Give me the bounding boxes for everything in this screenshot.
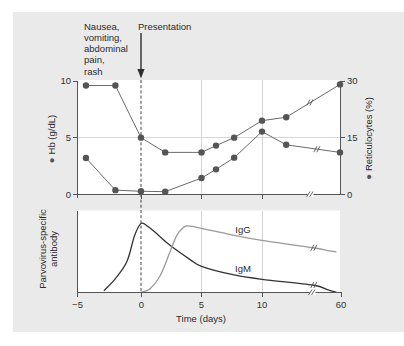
igg-curve-label: IgG xyxy=(235,224,250,235)
lower-x-axis-break-icon xyxy=(309,289,316,295)
upper-x-axis-break-icon xyxy=(307,191,314,197)
x-tick-label-5: 5 xyxy=(199,299,204,310)
x-tick-label-minus-5: −5 xyxy=(72,299,83,310)
reticulocytes-data-point xyxy=(213,166,219,172)
hb-data-point xyxy=(112,82,118,88)
reticulocytes-data-point xyxy=(283,142,289,148)
reticulocytes-data-point xyxy=(83,155,89,161)
reticulocytes-legend-marker-icon: ● xyxy=(363,174,374,180)
antibody-axis-label-line-1: Parvovirus-specific xyxy=(37,209,48,289)
hb-legend-marker-icon: ● xyxy=(46,157,57,163)
symptom-line: rash xyxy=(84,66,102,77)
reticulocytes-data-point xyxy=(198,175,204,181)
reticulocytes-data-point xyxy=(231,154,237,160)
left-tick-label-5: 5 xyxy=(66,132,71,143)
reticulocytes-data-point xyxy=(138,188,144,194)
left-tick-label-0: 0 xyxy=(66,189,71,200)
right-tick-label-0: 0 xyxy=(347,189,352,200)
x-tick-label-60: 60 xyxy=(336,299,347,310)
right-tick-label-15: 15 xyxy=(347,132,358,143)
igm-curve-label: IgM xyxy=(235,263,251,274)
figure: Nausea, vomiting, abdominal pain, rash P… xyxy=(0,0,404,346)
hb-data-point xyxy=(259,117,265,123)
hb-data-point xyxy=(283,114,289,120)
x-tick-label-0: 0 xyxy=(139,299,144,310)
left-tick-label-10: 10 xyxy=(60,75,71,86)
hb-axis-label-text: Hb (g/dL) xyxy=(46,115,57,155)
reticulocytes-axis-label: ●Reticulocytes (%) xyxy=(363,97,374,180)
upper-panel xyxy=(77,80,340,194)
hb-data-point xyxy=(198,149,204,155)
reticulocytes-data-point xyxy=(112,187,118,193)
x-axis-title: Time (days) xyxy=(176,313,226,324)
symptom-line: vomiting, xyxy=(84,32,122,43)
lower-plot-area xyxy=(77,211,340,293)
hb-data-point xyxy=(83,82,89,88)
hb-data-point xyxy=(138,134,144,140)
x-tick-label-10: 10 xyxy=(257,299,268,310)
hb-data-point xyxy=(231,134,237,140)
reticulocytes-data-point xyxy=(259,128,265,134)
antibody-axis-label-line-2: antibody xyxy=(48,231,59,267)
symptom-line: Nausea, xyxy=(84,21,119,32)
symptom-line: pain, xyxy=(84,54,105,65)
hb-data-point xyxy=(162,149,168,155)
presentation-label: Presentation xyxy=(138,21,191,32)
lower-panel xyxy=(77,211,340,293)
symptom-line: abdominal xyxy=(84,43,128,54)
reticulocytes-axis-label-text: Reticulocytes (%) xyxy=(363,97,374,171)
hb-data-point xyxy=(213,142,219,148)
right-tick-label-30: 30 xyxy=(347,75,358,86)
